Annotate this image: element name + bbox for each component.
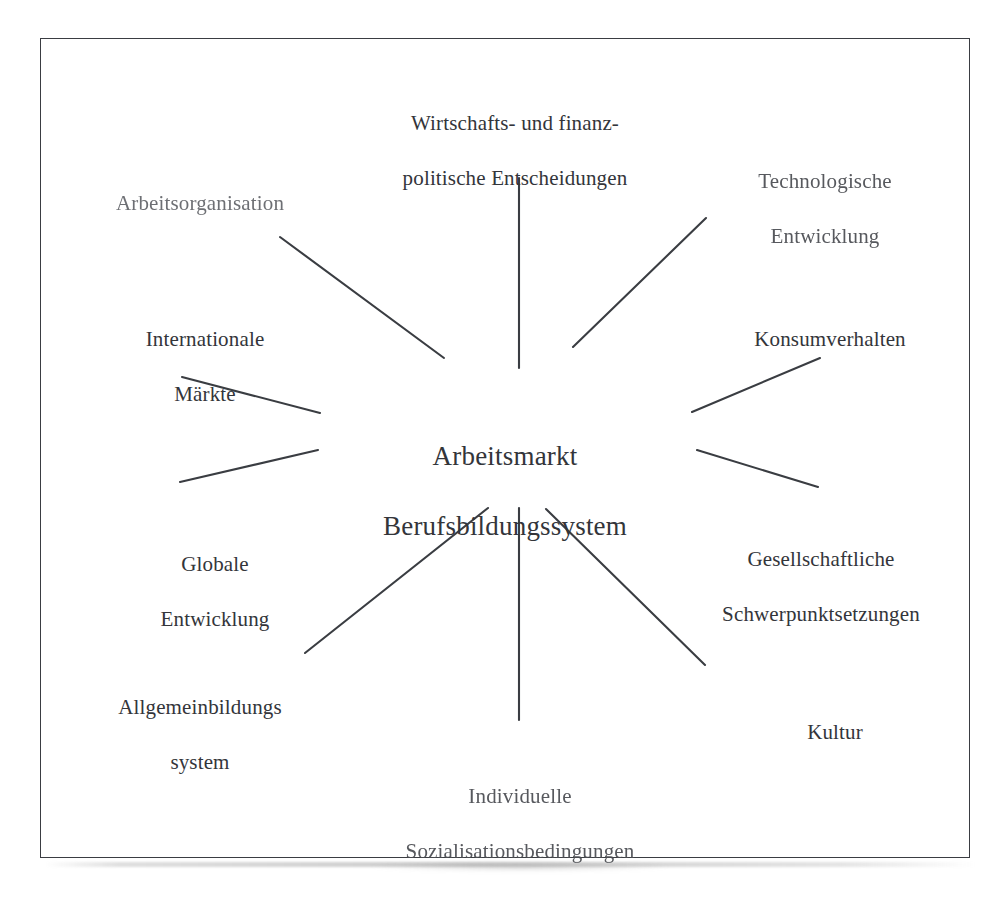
node-konsumverhalten: Konsumverhalten (690, 299, 970, 381)
node-globale-entwicklung: Globale Entwicklung (90, 524, 340, 660)
diagram-canvas: Arbeitsmarkt Berufsbildungssystem Wirtsc… (0, 0, 1006, 898)
node-kultur: Kultur (740, 692, 930, 774)
node-label-line-2: system (60, 749, 340, 776)
node-label-line-2: Schwerpunktsetzungen (676, 601, 966, 628)
node-label-line-1: Gesellschaftliche (676, 546, 966, 573)
node-technologische-entwicklung: Technologische Entwicklung (700, 141, 950, 277)
node-label-line-2: Sozialisationsbedingungen (340, 838, 700, 865)
center-node-line-1: Arbeitsmarkt (330, 439, 680, 474)
node-wirtschafts-finanzpolitische-entscheidungen: Wirtschafts- und finanz- politische Ents… (315, 83, 715, 219)
center-node-line-2: Berufsbildungssystem (330, 509, 680, 544)
node-label-line-1: Allgemeinbildungs (60, 694, 340, 721)
center-node: Arbeitsmarkt Berufsbildungssystem (330, 404, 680, 579)
node-label-line-1: Konsumverhalten (690, 326, 970, 353)
node-gesellschaftliche-schwerpunktsetzungen: Gesellschaftliche Schwerpunktsetzungen (676, 519, 966, 655)
node-label-line-1: Individuelle (340, 783, 700, 810)
node-label-line-1: Arbeitsorganisation (60, 190, 340, 217)
node-label-line-2: politische Entscheidungen (315, 165, 715, 192)
node-label-line-2: Entwicklung (90, 606, 340, 633)
node-label-line-1: Wirtschafts- und finanz- (315, 110, 715, 137)
node-allgemeinbildungssystem: Allgemeinbildungs system (60, 667, 340, 803)
node-label-line-2: Entwicklung (700, 223, 950, 250)
node-individuelle-sozialisationsbedingungen: Individuelle Sozialisationsbedingungen (340, 756, 700, 892)
node-internationale-maerkte: Internationale Märkte (80, 299, 330, 435)
node-label-line-1: Kultur (740, 719, 930, 746)
node-label-line-1: Internationale (80, 326, 330, 353)
node-arbeitsorganisation: Arbeitsorganisation (60, 163, 340, 245)
node-label-line-2: Märkte (80, 381, 330, 408)
node-label-line-1: Technologische (700, 168, 950, 195)
node-label-line-1: Globale (90, 551, 340, 578)
